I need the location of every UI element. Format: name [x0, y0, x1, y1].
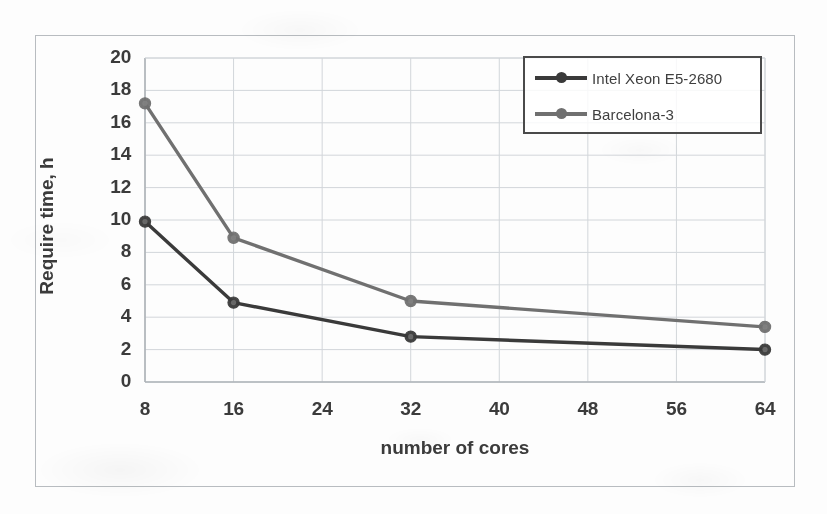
legend-label-intel-xeon: Intel Xeon E5-2680: [592, 70, 722, 87]
legend-swatch-barcelona: [535, 107, 587, 121]
y-tick-label: 6: [69, 273, 131, 295]
y-tick-label: 12: [69, 176, 131, 198]
x-tick-label: 24: [292, 398, 352, 420]
x-axis-title: number of cores: [145, 437, 765, 459]
y-tick-label: 14: [69, 143, 131, 165]
y-tick-label: 20: [69, 46, 131, 68]
data-series-markers: [139, 98, 770, 355]
y-tick-label: 10: [69, 208, 131, 230]
y-axis-title: Require time, h: [36, 141, 58, 311]
y-tick-label: 18: [69, 78, 131, 100]
y-tick-label: 2: [69, 338, 131, 360]
y-tick-label: 4: [69, 305, 131, 327]
y-tick-label: 16: [69, 111, 131, 133]
y-tick-label: 8: [69, 240, 131, 262]
x-tick-label: 64: [735, 398, 795, 420]
x-tick-label: 40: [469, 398, 529, 420]
chart-legend: Intel Xeon E5-2680 Barcelona-3: [523, 56, 762, 134]
data-series-lines: [145, 103, 765, 349]
figure-container: 02468101214161820 816243240485664 Requir…: [0, 0, 827, 514]
legend-item-intel-xeon: Intel Xeon E5-2680: [535, 66, 722, 90]
x-tick-label: 8: [115, 398, 175, 420]
legend-swatch-intel-xeon: [535, 71, 587, 85]
x-tick-label: 48: [558, 398, 618, 420]
legend-item-barcelona: Barcelona-3: [535, 102, 674, 126]
x-tick-label: 32: [381, 398, 441, 420]
x-tick-label: 16: [204, 398, 264, 420]
x-tick-label: 56: [646, 398, 706, 420]
legend-label-barcelona: Barcelona-3: [592, 106, 674, 123]
y-tick-label: 0: [69, 370, 131, 392]
